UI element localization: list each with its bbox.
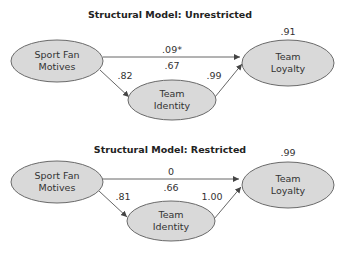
coef-identity-to-loyalty: .99	[206, 70, 221, 81]
node-label: Sport Fan	[35, 49, 80, 60]
coef-motives-to-loyalty: .09*	[162, 44, 182, 55]
r2-loyalty: .91	[280, 26, 295, 37]
model-restricted: Structural Model: Restricted Sport Fan M…	[11, 144, 334, 241]
node-team-loyalty: Team Loyalty	[242, 162, 334, 208]
node-label: Loyalty	[271, 185, 306, 196]
node-label: Motives	[39, 182, 76, 193]
r2-loyalty: .99	[280, 147, 295, 158]
node-label: Team	[274, 51, 300, 62]
model-unrestricted: Structural Model: Unrestricted Sport Fan…	[11, 9, 334, 120]
node-label: Identity	[154, 100, 191, 111]
node-label: Motives	[39, 61, 76, 72]
node-label: Team	[158, 88, 184, 99]
node-team-loyalty: Team Loyalty	[242, 40, 334, 86]
node-label: Identity	[153, 221, 190, 232]
coef-motives-to-loyalty: 0	[168, 166, 174, 177]
node-label: Loyalty	[271, 63, 306, 74]
node-label: Sport Fan	[35, 170, 80, 181]
node-label: Team	[157, 209, 183, 220]
structural-model-diagrams: Structural Model: Unrestricted Sport Fan…	[0, 0, 340, 256]
r2-identity: .67	[164, 60, 179, 71]
coef-identity-to-loyalty: 1.00	[201, 191, 222, 202]
node-label: Team	[274, 173, 300, 184]
node-team-identity: Team Identity	[127, 201, 215, 241]
coef-motives-to-identity: .82	[117, 70, 132, 81]
coef-motives-to-identity: .81	[115, 191, 130, 202]
model-title: Structural Model: Unrestricted	[88, 9, 252, 20]
node-sport-fan-motives: Sport Fan Motives	[11, 161, 103, 203]
r2-identity: .66	[163, 182, 178, 193]
node-sport-fan-motives: Sport Fan Motives	[11, 40, 103, 82]
node-team-identity: Team Identity	[128, 80, 216, 120]
model-title: Structural Model: Restricted	[94, 144, 246, 155]
